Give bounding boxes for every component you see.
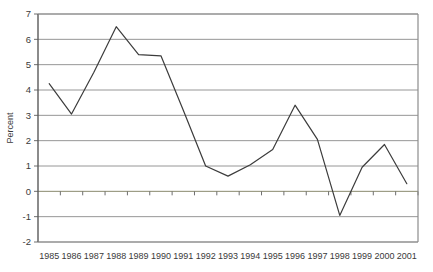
xtick-label-1986: 1986 [62,251,82,261]
ytick-label-1: 1 [26,160,31,171]
xtick-label-1997: 1997 [307,251,327,261]
y-axis-title: Percent [5,112,15,144]
chart-canvas: 76543210-1-21985198619871988198919901991… [0,0,433,272]
xtick-label-1990: 1990 [151,251,171,261]
xtick-label-1995: 1995 [263,251,283,261]
ytick-label-2: 2 [26,135,31,146]
ytick-label-5: 5 [26,59,31,70]
xtick-label-1994: 1994 [240,251,260,261]
xtick-label-1988: 1988 [106,251,126,261]
ytick-label-0: 0 [26,186,31,197]
ytick-label-6: 6 [26,34,31,45]
xtick-label-1998: 1998 [330,251,350,261]
xtick-label-1985: 1985 [39,251,59,261]
xtick-label-2000: 2000 [374,251,394,261]
xtick-label-2001: 2001 [397,251,417,261]
plot-area-background [38,14,418,242]
line-chart-figure: 76543210-1-21985198619871988198919901991… [0,0,433,272]
xtick-label-1989: 1989 [129,251,149,261]
xtick-label-1991: 1991 [173,251,193,261]
ytick-label--1: -1 [23,211,31,222]
xtick-label-1987: 1987 [84,251,104,261]
ytick-label-4: 4 [26,84,31,95]
xtick-label-1993: 1993 [218,251,238,261]
ytick-label--2: -2 [23,236,31,247]
xtick-label-1992: 1992 [196,251,216,261]
ytick-label-7: 7 [26,8,31,19]
xtick-label-1999: 1999 [352,251,372,261]
xtick-label-1996: 1996 [285,251,305,261]
ytick-label-3: 3 [26,110,31,121]
